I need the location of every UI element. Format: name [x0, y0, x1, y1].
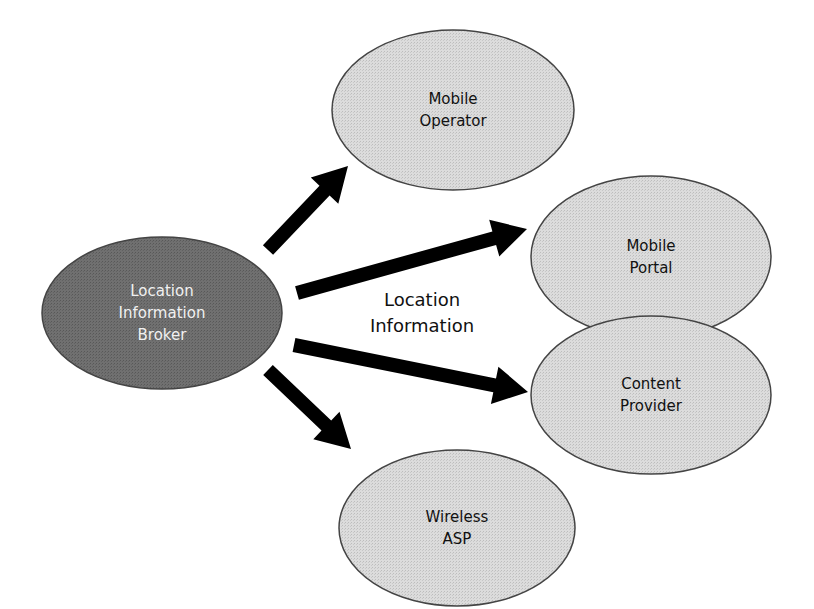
arrow-icon [293, 338, 528, 404]
arrow-icon [263, 365, 351, 449]
node-wireless-asp: WirelessASP [339, 450, 575, 606]
node-ellipse [339, 450, 575, 606]
edge-label-line: Information [370, 315, 474, 336]
node-mobile-portal: MobilePortal [531, 176, 771, 338]
arrow-mobile-portal [295, 220, 527, 300]
arrow-icon [295, 220, 527, 300]
node-broker: LocationInformationBroker [42, 237, 282, 389]
node-ellipse [531, 176, 771, 338]
location-broker-diagram: LocationInformationBrokerMobileOperatorM… [0, 0, 814, 609]
arrow-icon [263, 166, 348, 255]
node-mobile-operator: MobileOperator [332, 30, 574, 190]
node-label-line: Mobile [428, 90, 477, 108]
edge-label-line: Location [384, 289, 460, 310]
node-label-line: Portal [629, 259, 672, 277]
node-ellipse [531, 316, 771, 474]
node-ellipse [332, 30, 574, 190]
node-content-provider: ContentProvider [531, 316, 771, 474]
node-label-line: Operator [419, 112, 487, 130]
node-label-line: Broker [138, 326, 188, 344]
arrow-wireless-asp [263, 365, 351, 449]
node-label-line: Mobile [626, 237, 675, 255]
arrow-mobile-operator [263, 166, 348, 255]
node-label-line: Location [130, 282, 193, 300]
node-label-line: Information [119, 304, 206, 322]
node-label-line: ASP [443, 530, 472, 548]
node-label-line: Content [621, 375, 681, 393]
node-label-line: Provider [620, 397, 683, 415]
arrow-content-provider [293, 338, 528, 404]
edge-label: LocationInformation [370, 289, 474, 336]
node-label-line: Wireless [426, 508, 489, 526]
